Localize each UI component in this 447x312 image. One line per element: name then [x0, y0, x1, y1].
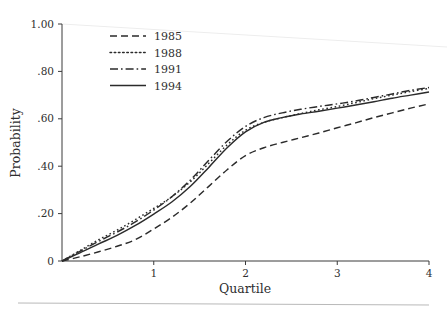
chart-figure: 0.20.40.60.801.00 1234 1985198819911994 …: [0, 0, 447, 312]
legend-label-1988: 1988: [154, 47, 182, 60]
series-line-1985: [62, 104, 429, 261]
x-axis-title: Quartile: [219, 281, 271, 296]
y-tick-label: .20: [37, 207, 54, 219]
series-line-1994: [62, 92, 429, 261]
y-tick-label: .60: [37, 112, 54, 124]
legend-label-1991: 1991: [154, 63, 182, 76]
x-axis-ticks: 1234: [150, 261, 432, 279]
x-tick-label: 3: [334, 267, 341, 279]
chart-legend: 1985198819911994: [110, 30, 182, 93]
x-tick-label: 4: [426, 267, 433, 279]
y-axis-ticks: 0.20.40.60.801.00: [31, 18, 62, 267]
series-group: [62, 88, 429, 261]
x-tick-label: 1: [150, 267, 157, 279]
legend-label-1985: 1985: [154, 30, 182, 43]
y-tick-label: .40: [37, 160, 54, 172]
scan-artifact-line: [62, 24, 447, 47]
y-tick-label: 1.00: [31, 18, 54, 30]
x-tick-label: 2: [242, 267, 249, 279]
y-tick-label: .80: [37, 65, 54, 77]
page-divider-rule: [18, 303, 429, 305]
y-axis-title: Probability: [8, 107, 23, 177]
legend-label-1994: 1994: [154, 80, 182, 93]
probability-by-quartile-chart: 0.20.40.60.801.00 1234 1985198819911994 …: [0, 0, 447, 312]
y-tick-label: 0: [47, 255, 54, 267]
